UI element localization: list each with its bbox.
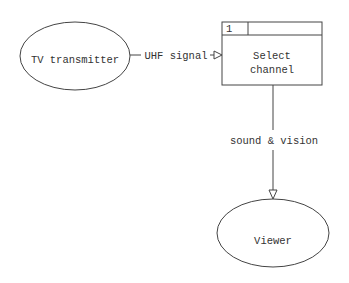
arrowhead-icon — [214, 51, 222, 59]
flow-sound-vision[interactable]: sound & vision — [230, 85, 318, 199]
tv-transmitter-label: TV transmitter — [31, 54, 119, 66]
flow-uhf-label: UHF signal — [144, 50, 207, 62]
dfd-canvas: TV transmitter UHF signal 1 Select chann… — [0, 0, 349, 283]
flow-uhf-signal[interactable]: UHF signal — [130, 50, 222, 62]
process-number: 1 — [226, 23, 232, 35]
process-label-line2: channel — [250, 64, 294, 76]
entity-viewer[interactable]: Viewer — [217, 199, 329, 267]
process-select-channel[interactable]: 1 Select channel — [222, 22, 322, 85]
viewer-label: Viewer — [254, 235, 292, 247]
viewer-ellipse — [217, 199, 329, 267]
process-label-line1: Select — [253, 50, 291, 62]
arrowhead-icon — [269, 190, 277, 199]
entity-tv-transmitter[interactable]: TV transmitter — [20, 22, 130, 90]
flow-sv-label: sound & vision — [230, 135, 318, 147]
